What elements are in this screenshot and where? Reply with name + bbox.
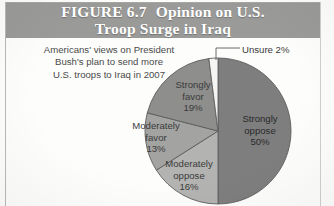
- slice-name-moderately-favor-1: Moderately: [132, 120, 179, 131]
- slice-name-moderately-oppose-1: Moderately: [165, 158, 212, 169]
- figure-caption: Americans' views on President Bush's pla…: [14, 44, 204, 81]
- caption-line-1: Americans' views on President: [14, 44, 204, 56]
- slice-pct-moderately-oppose: 16%: [152, 181, 226, 193]
- caption-line-2: Bush's plan to send more: [14, 56, 204, 68]
- figure-container: FIGURE 6.7Opinion on U.S. Troop Surge in…: [0, 0, 334, 206]
- slice-label-unsure: Unsure 2%: [242, 44, 289, 55]
- slice-name-moderately-favor-2: favor: [145, 132, 166, 143]
- slice-label-strongly-favor: Strongly favor 19%: [160, 79, 226, 114]
- slice-label-moderately-oppose: Moderately oppose 16%: [152, 158, 226, 193]
- slice-pct-strongly-oppose: 50%: [224, 136, 296, 148]
- slice-name-strongly-oppose-1: Strongly: [242, 113, 277, 124]
- slice-label-strongly-oppose: Strongly oppose 50%: [224, 113, 296, 148]
- slice-name-moderately-oppose-2: oppose: [173, 170, 204, 181]
- slice-pct-strongly-favor: 19%: [160, 102, 226, 114]
- slice-label-moderately-favor: Moderately favor 13%: [118, 120, 194, 155]
- slice-name-strongly-favor-1: Strongly: [175, 79, 210, 90]
- slice-pct-moderately-favor: 13%: [118, 143, 194, 155]
- slice-name-strongly-oppose-2: oppose: [244, 125, 275, 136]
- slice-name-strongly-favor-2: favor: [182, 91, 203, 102]
